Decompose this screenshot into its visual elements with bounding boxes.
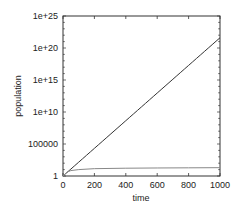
chart: 02004006008001000 11000001e+101e+151e+20… [0, 0, 241, 216]
x-tick-label: 200 [87, 180, 102, 190]
x-tick-label: 800 [181, 180, 196, 190]
y-tick-label: 1e+25 [33, 11, 58, 21]
x-tick-label: 0 [60, 180, 65, 190]
series-line-logistic-growth [63, 168, 220, 176]
y-tick-label: 100000 [28, 139, 58, 149]
y-tick-label: 1e+15 [33, 75, 58, 85]
y-tick-label: 1e+20 [33, 43, 58, 53]
x-tick-label: 1000 [210, 180, 230, 190]
x-tick-label: 600 [150, 180, 165, 190]
y-axis-ticks: 11000001e+101e+151e+201e+25 [28, 11, 220, 181]
series-lines [63, 38, 220, 176]
y-axis-label: population [13, 75, 23, 117]
y-tick-label: 1 [53, 171, 58, 181]
x-axis-label: time [132, 193, 149, 203]
series-line-exponential-growth [63, 38, 220, 176]
x-tick-label: 400 [118, 180, 133, 190]
y-tick-label: 1e+10 [33, 107, 58, 117]
plot-frame [63, 16, 220, 176]
